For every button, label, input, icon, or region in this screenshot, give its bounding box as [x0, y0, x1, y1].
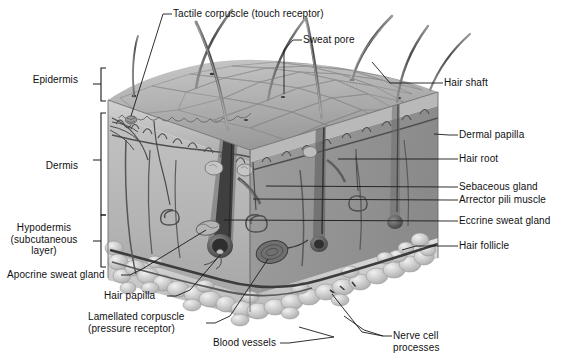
label-hypodermis: Hypodermis (subcutaneous layer) — [0, 222, 88, 257]
label-blood-vessels: Blood vessels — [213, 337, 276, 349]
label-sebaceous-gland: Sebaceous gland — [459, 181, 538, 193]
label-hair-shaft: Hair shaft — [444, 77, 488, 89]
label-eccrine-sweat-gland: Eccrine sweat gland — [459, 215, 550, 227]
label-dermal-papilla: Dermal papilla — [459, 129, 524, 141]
label-epidermis: Epidermis — [0, 74, 78, 86]
label-apocrine-sweat-gland: Apocrine sweat gland — [7, 269, 105, 281]
label-arrector-pili-muscle: Arrector pili muscle — [459, 194, 546, 206]
skin-block — [105, 10, 470, 326]
bracket-dermis — [93, 113, 106, 215]
layer-brackets — [93, 68, 106, 267]
label-hair-root: Hair root — [459, 153, 498, 165]
label-nerve-cell-processes: Nerve cell processes — [393, 330, 439, 353]
label-dermis: Dermis — [0, 160, 78, 172]
bracket-epidermis — [93, 68, 106, 101]
tactile-corpuscle — [126, 116, 137, 124]
label-sweat-pore: Sweat pore — [303, 34, 355, 46]
sebaceous-gland-right — [303, 147, 317, 158]
skin-diagram-figure: Epidermis Dermis Hypodermis (subcutaneou… — [0, 0, 562, 361]
bracket-hypodermis — [93, 215, 106, 267]
label-tactile-corpuscle: Tactile corpuscle (touch receptor) — [173, 8, 324, 20]
label-hair-follicle: Hair follicle — [459, 240, 509, 252]
label-lamellated-corpuscle: Lamellated corpuscle (pressure receptor) — [88, 311, 185, 334]
label-hair-papilla: Hair papilla — [104, 290, 155, 302]
leader-blood-vessels — [280, 327, 334, 343]
